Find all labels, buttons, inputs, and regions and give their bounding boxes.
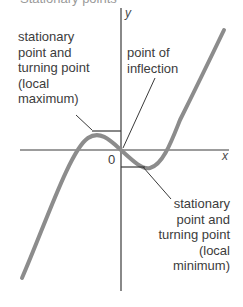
local-max-leader <box>76 115 92 130</box>
annotation-line: point and <box>18 45 90 61</box>
annotation-line: minimum) <box>158 258 230 274</box>
inflection-leader <box>123 78 155 148</box>
inflection-annotation: point of inflection <box>127 45 178 76</box>
annotation-line: (local <box>18 76 90 92</box>
annotation-line: stationary <box>18 29 90 45</box>
annotation-line: turning point <box>158 227 230 243</box>
annotation-line: (local <box>158 243 230 259</box>
local-maximum-annotation: stationary point and turning point (loca… <box>18 29 90 107</box>
x-axis-label: x <box>222 149 228 163</box>
origin-label: 0 <box>108 152 115 167</box>
annotation-line: turning point <box>18 60 90 76</box>
annotation-line: maximum) <box>18 91 90 107</box>
local-min-leader <box>143 167 171 199</box>
local-minimum-annotation: stationary point and turning point (loca… <box>158 196 230 274</box>
annotation-line: point of <box>127 45 178 61</box>
annotation-line: inflection <box>127 61 178 77</box>
y-axis-label: y <box>125 6 131 20</box>
annotation-line: stationary <box>158 196 230 212</box>
cropped-title: Stationary points <box>20 0 117 6</box>
annotation-line: point and <box>158 212 230 228</box>
